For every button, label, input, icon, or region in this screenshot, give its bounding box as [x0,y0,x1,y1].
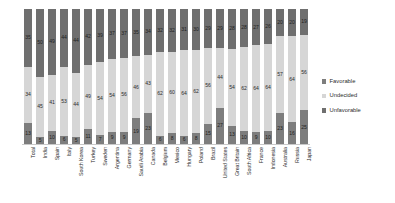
chart-legend: FavorableUndecidedUnfavorable [322,78,394,122]
bar-segment-undecided[interactable]: 27 [216,108,223,144]
bar-segment-favorable-area[interactable]: 49 [84,65,91,130]
bar-segment-unfavorable[interactable]: 35 [132,9,139,56]
bar-segment-unfavorable[interactable]: 32 [156,9,163,52]
bar-segment-undecided[interactable]: 10 [240,131,247,145]
bar-segment-favorable-area[interactable]: 62 [156,52,163,136]
bar-column[interactable]: 286210 [239,9,249,144]
bar-column[interactable]: 31646 [179,9,189,144]
bar-segment-unfavorable[interactable]: 20 [288,9,295,36]
bar-segment-favorable-area[interactable]: 53 [60,67,67,136]
legend-item[interactable]: Undecided [322,93,394,100]
bar-segment-favorable-area[interactable]: 46 [132,56,139,118]
bar-segment-favorable-area[interactable]: 44 [72,73,79,137]
bar-column[interactable]: 344323 [143,9,153,144]
bar-segment-unfavorable[interactable]: 31 [180,9,187,50]
bar-segment-undecided[interactable]: 8 [192,133,199,144]
bar-segment-unfavorable[interactable]: 37 [108,9,115,59]
bar-column[interactable]: 50455 [35,9,45,144]
bar-segment-undecided[interactable]: 5 [72,137,79,144]
bar-column[interactable]: 266410 [263,9,273,144]
bar-column[interactable]: 32626 [155,9,165,144]
bar-segment-unfavorable[interactable]: 19 [300,9,307,35]
bar-column[interactable]: 424911 [83,9,93,144]
bar-segment-undecided[interactable]: 5 [36,137,43,144]
bar-column[interactable]: 44445 [71,9,81,144]
bar-segment-unfavorable[interactable]: 28 [240,9,247,47]
bar-segment-favorable-area[interactable]: 62 [240,47,247,131]
bar-segment-unfavorable[interactable]: 29 [216,9,223,48]
bar-segment-unfavorable[interactable]: 35 [24,9,31,67]
bar-segment-undecided[interactable]: 8 [168,133,175,144]
bar-segment-undecided[interactable]: 9 [120,132,127,144]
bar-segment-undecided[interactable]: 19 [132,118,139,144]
bar-segment-undecided[interactable]: 25 [300,110,307,144]
bar-segment-unfavorable[interactable]: 42 [84,9,91,65]
bar-segment-undecided[interactable]: 9 [108,132,115,144]
bar-segment-favorable-area[interactable]: 64 [180,50,187,136]
bar-column[interactable]: 206416 [287,9,297,144]
bar-segment-favorable-area[interactable]: 64 [252,45,259,131]
bar-segment-unfavorable[interactable]: 49 [48,9,55,75]
bar-column[interactable]: 295615 [203,9,213,144]
bar-segment-unfavorable[interactable]: 44 [60,9,67,67]
bar-column[interactable]: 44536 [59,9,69,144]
bar-segment-undecided[interactable]: 6 [60,136,67,144]
bar-segment-favorable-area[interactable]: 64 [264,44,271,130]
legend-item[interactable]: Favorable [322,78,394,85]
bar-segment-favorable-area[interactable]: 54 [108,59,115,132]
bar-segment-undecided[interactable]: 9 [252,132,259,144]
bar-segment-undecided[interactable]: 13 [228,126,235,144]
bar-segment-favorable-area[interactable]: 57 [276,36,283,113]
bar-segment-unfavorable[interactable]: 20 [276,9,283,36]
bar-segment-undecided[interactable]: 7 [96,135,103,144]
bar-segment-favorable-area[interactable]: 56 [300,35,307,111]
bar-column[interactable]: 285413 [227,9,237,144]
bar-column[interactable]: 37549 [107,9,117,144]
bar-segment-favorable-area[interactable]: 54 [228,49,235,126]
bar-segment-unfavorable[interactable]: 32 [168,9,175,52]
bar-segment-favorable-area[interactable]: 45 [36,77,43,138]
bar-column[interactable]: 39547 [95,9,105,144]
bar-column[interactable]: 294427 [215,9,225,144]
bar-segment-favorable-area[interactable]: 41 [48,75,55,130]
bar-column[interactable]: 494110 [47,9,57,144]
bar-segment-unfavorable[interactable]: 37 [120,9,127,58]
bar-segment-favorable-area[interactable]: 56 [204,48,211,124]
bar-segment-undecided[interactable]: 6 [156,136,163,144]
bar-column[interactable]: 205723 [275,9,285,144]
bar-segment-unfavorable[interactable]: 30 [192,9,199,50]
bar-segment-undecided[interactable]: 23 [276,113,283,144]
legend-item[interactable]: Unfavorable [322,107,394,114]
bar-segment-favorable-area[interactable]: 62 [192,50,199,134]
bar-segment-unfavorable[interactable]: 26 [264,9,271,44]
bar-segment-undecided[interactable]: 10 [48,131,55,145]
bar-column[interactable]: 195625 [299,9,309,144]
bar-column[interactable]: 27649 [251,9,261,144]
bar-segment-undecided[interactable]: 15 [204,124,211,144]
bar-segment-unfavorable[interactable]: 44 [72,9,79,73]
bar-segment-unfavorable[interactable]: 29 [204,9,211,48]
bar-segment-favorable-area[interactable]: 54 [96,62,103,135]
bar-segment-undecided[interactable]: 11 [84,129,91,144]
bar-segment-undecided[interactable]: 23 [144,113,151,144]
bar-segment-unfavorable[interactable]: 27 [252,9,259,45]
bar-segment-unfavorable[interactable]: 39 [96,9,103,62]
bar-segment-unfavorable[interactable]: 50 [36,9,43,77]
bar-column[interactable]: 353413 [23,9,33,144]
bar-segment-favorable-area[interactable]: 34 [24,67,31,123]
bar-segment-favorable-area[interactable]: 44 [216,48,223,107]
bar-column[interactable]: 32608 [167,9,177,144]
bar-column[interactable]: 30628 [191,9,201,144]
bar-column[interactable]: 354619 [131,9,141,144]
bar-column[interactable]: 37569 [119,9,129,144]
bar-segment-favorable-area[interactable]: 43 [144,55,151,113]
bar-segment-favorable-area[interactable]: 64 [288,36,295,122]
bar-segment-favorable-area[interactable]: 60 [168,52,175,133]
bar-segment-undecided[interactable]: 13 [24,123,31,144]
bar-segment-undecided[interactable]: 16 [288,122,295,144]
bar-segment-unfavorable[interactable]: 28 [228,9,235,49]
bar-segment-unfavorable[interactable]: 34 [144,9,151,55]
bar-segment-favorable-area[interactable]: 56 [120,58,127,132]
bar-segment-undecided[interactable]: 6 [180,136,187,144]
bar-segment-undecided[interactable]: 10 [264,131,271,145]
